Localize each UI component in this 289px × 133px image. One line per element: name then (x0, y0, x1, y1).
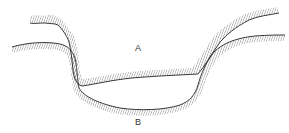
label-b: B (135, 118, 141, 127)
profiles-drawing (0, 0, 289, 133)
profile-a-hatch (30, 7, 279, 86)
label-a: A (135, 44, 141, 53)
diagram-canvas: A B (0, 0, 289, 133)
profile-a (30, 7, 279, 86)
